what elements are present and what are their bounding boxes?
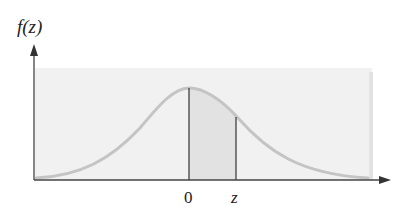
y-axis-label: f(z) [17,16,42,38]
x-axis-arrow-icon [379,176,391,184]
panel-right-shadow [369,72,373,180]
tick-label-zero: 0 [184,188,193,207]
normal-curve-figure: f(z) 0 z [0,0,403,224]
y-axis-arrow-icon [30,44,38,56]
tick-label-z: z [230,188,238,207]
